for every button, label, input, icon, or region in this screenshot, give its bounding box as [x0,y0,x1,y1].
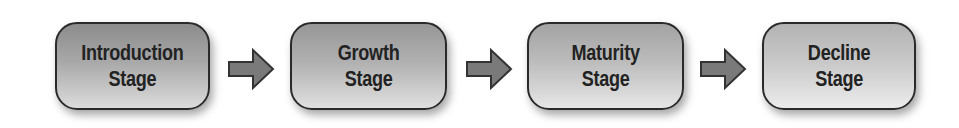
stage-label: Decline Stage [808,40,870,92]
stage-title: Introduction [81,40,183,66]
stage-title: Decline [808,40,870,66]
right-arrow-icon [465,47,513,91]
right-arrow-icon [699,47,747,91]
stage-box-decline: Decline Stage [762,22,916,110]
stage-box-maturity: Maturity Stage [527,22,684,110]
stage-subtitle: Stage [808,66,870,92]
stage-subtitle: Stage [81,66,183,92]
stage-title: Growth [338,40,400,66]
stage-subtitle: Stage [571,66,639,92]
stage-subtitle: Stage [338,66,400,92]
stage-box-growth: Growth Stage [290,22,447,110]
stage-label: Growth Stage [338,40,400,92]
stage-label: Introduction Stage [81,40,183,92]
right-arrow-icon [227,47,275,91]
stage-box-introduction: Introduction Stage [55,22,210,110]
stage-label: Maturity Stage [571,40,639,92]
stage-title: Maturity [571,40,639,66]
